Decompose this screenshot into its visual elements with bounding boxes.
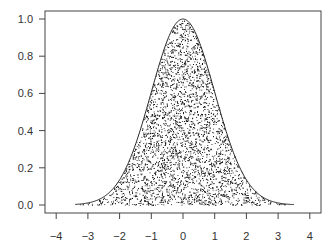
x-tick-label: −2 — [113, 230, 126, 242]
x-tick-label: 1 — [212, 230, 218, 242]
y-tick-label: 0.4 — [18, 125, 33, 137]
x-tick-label: 3 — [275, 230, 281, 242]
x-tick-label: −3 — [82, 230, 95, 242]
y-tick-label: 0.8 — [18, 50, 33, 62]
x-tick-label: 2 — [243, 230, 249, 242]
y-axis: 0.00.20.40.60.81.0 — [18, 13, 45, 211]
y-tick-label: 0.2 — [18, 162, 33, 174]
x-tick-label: 0 — [180, 230, 186, 242]
plot-frame — [45, 11, 321, 213]
x-tick-label: 4 — [307, 230, 313, 242]
y-tick-label: 0.6 — [18, 87, 33, 99]
x-axis: −4−3−2−101234 — [50, 213, 313, 242]
y-tick-label: 0.0 — [18, 199, 33, 211]
scatter-points — [80, 21, 285, 206]
gaussian-chart: −4−3−2−101234 0.00.20.40.60.81.0 — [0, 0, 336, 251]
gaussian-curve — [75, 19, 294, 205]
x-tick-label: −4 — [50, 230, 63, 242]
y-tick-label: 1.0 — [18, 13, 33, 25]
x-tick-label: −1 — [145, 230, 158, 242]
